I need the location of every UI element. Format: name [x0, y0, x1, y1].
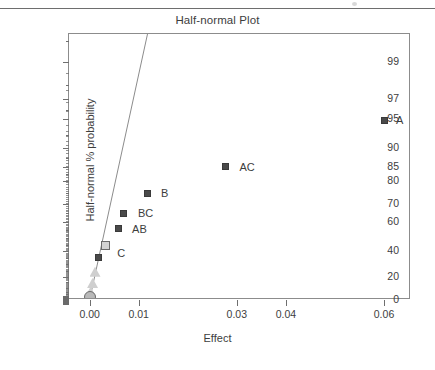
- y-axis-zero-block: [63, 296, 69, 305]
- y-tick-minor: [66, 136, 70, 137]
- y-tick-minor: [66, 213, 70, 214]
- y-tick-minor: [66, 263, 70, 264]
- y-tick-minor: [66, 160, 70, 161]
- y-tick-minor: [66, 119, 70, 120]
- data-point-label: AB: [132, 224, 147, 235]
- y-tick-minor: [66, 284, 70, 285]
- y-tick-minor: [66, 163, 70, 164]
- y-tick-minor: [66, 283, 70, 284]
- y-tick-minor: [66, 267, 70, 268]
- y-tick-minor: [66, 125, 70, 126]
- y-tick-minor: [66, 225, 70, 226]
- y-tick-minor: [66, 261, 70, 262]
- data-point-marker[interactable]: [222, 163, 229, 170]
- data-point-label: AC: [240, 162, 255, 173]
- y-tick-minor: [66, 245, 70, 246]
- y-tick-minor: [66, 150, 70, 151]
- plot-inner: AACBBCABC: [69, 34, 409, 298]
- y-tick-minor: [66, 203, 70, 204]
- y-tick-minor: [66, 197, 70, 198]
- y-tick-minor: [66, 290, 70, 291]
- y-tick-minor: [66, 246, 70, 247]
- y-tick-minor: [66, 229, 70, 230]
- y-tick-minor: [66, 73, 70, 74]
- y-tick-minor: [66, 255, 70, 256]
- y-tick-label: 97: [359, 93, 399, 104]
- y-tick-minor: [66, 189, 70, 190]
- y-tick-minor: [66, 280, 70, 281]
- y-tick-minor: [66, 182, 70, 183]
- y-tick-minor: [66, 228, 70, 229]
- plot-area: AACBBCABC Half-normal % probability 0204…: [68, 33, 410, 299]
- y-tick-minor: [66, 270, 70, 271]
- y-tick-minor: [66, 266, 70, 267]
- x-tick: [237, 300, 238, 306]
- y-tick-minor: [66, 177, 70, 178]
- y-tick-minor: [66, 111, 70, 112]
- y-tick-minor: [66, 41, 70, 42]
- y-tick-minor: [66, 201, 70, 202]
- y-tick-minor: [66, 244, 70, 245]
- y-tick-minor: [66, 218, 70, 219]
- y-tick-minor: [66, 253, 70, 254]
- y-tick-minor: [66, 276, 70, 277]
- data-point-marker[interactable]: [144, 190, 151, 197]
- y-tick-minor: [66, 257, 70, 258]
- y-tick-minor: [66, 216, 70, 217]
- y-tick-minor: [66, 211, 70, 212]
- y-tick-minor: [66, 287, 70, 288]
- y-tick-minor: [66, 269, 70, 270]
- data-point-label: BC: [138, 208, 153, 219]
- y-tick-minor: [66, 293, 70, 294]
- y-tick-minor: [66, 282, 70, 283]
- y-tick-label: 40: [359, 245, 399, 256]
- y-tick-minor: [66, 153, 70, 154]
- y-tick-minor: [66, 275, 70, 276]
- y-tick-minor: [66, 204, 70, 205]
- y-tick-label: 20: [359, 271, 399, 282]
- x-tick-label: 0.04: [256, 308, 316, 320]
- half-normal-plot-figure: Half-normal Plot AACBBCABC Half-normal %…: [0, 0, 435, 370]
- y-tick-minor: [66, 221, 70, 222]
- y-tick-minor: [66, 193, 70, 194]
- y-tick-minor: [66, 90, 70, 91]
- y-tick-minor: [66, 258, 70, 259]
- y-tick-minor: [66, 157, 70, 158]
- y-tick-label: 0: [359, 294, 399, 305]
- y-tick-minor: [66, 278, 70, 279]
- y-tick-label: 80: [359, 175, 399, 186]
- data-point-label: B: [161, 188, 168, 199]
- data-point-marker[interactable]: [115, 225, 122, 232]
- y-tick-minor: [66, 172, 70, 173]
- y-tick-minor: [66, 169, 70, 170]
- data-point-marker[interactable]: [84, 291, 96, 298]
- y-tick-minor: [66, 262, 70, 263]
- y-tick-minor: [66, 240, 70, 241]
- y-tick-label: 90: [359, 142, 399, 153]
- y-tick-minor: [66, 234, 70, 235]
- y-tick-minor: [66, 249, 70, 250]
- y-tick-minor: [66, 243, 70, 244]
- x-tick: [384, 300, 385, 306]
- y-tick-label: 70: [359, 198, 399, 209]
- y-tick-minor: [66, 272, 70, 273]
- y-tick-minor: [66, 158, 70, 159]
- y-tick-label: 85: [359, 161, 399, 172]
- header-divider: [0, 8, 435, 9]
- y-tick-minor: [66, 208, 70, 209]
- data-point-label: C: [117, 248, 125, 259]
- y-tick-minor: [66, 210, 70, 211]
- data-point-marker[interactable]: [120, 210, 127, 217]
- page-artifact-dot: [352, 2, 357, 6]
- data-point-marker[interactable]: [101, 241, 110, 250]
- y-tick-minor: [66, 254, 70, 255]
- y-tick-minor: [66, 241, 70, 242]
- y-tick-label: 95: [359, 113, 399, 124]
- y-tick-minor: [66, 274, 70, 275]
- x-tick: [139, 300, 140, 306]
- chart-title: Half-normal Plot: [0, 14, 435, 26]
- y-tick-minor: [66, 199, 70, 200]
- x-tick: [90, 300, 91, 306]
- y-tick-minor: [66, 215, 70, 216]
- y-tick-minor: [66, 238, 70, 239]
